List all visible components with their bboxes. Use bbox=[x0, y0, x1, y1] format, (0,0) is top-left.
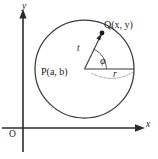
x-axis-label: x bbox=[146, 120, 150, 130]
point-Q-dot bbox=[100, 31, 105, 36]
y-axis-label: y bbox=[22, 2, 26, 12]
point-P-label: P(a, b) bbox=[41, 67, 68, 77]
diagram-canvas bbox=[0, 0, 158, 159]
origin-label: O bbox=[9, 130, 16, 140]
geometry-diagram: y x O Q(x, y) P(a, b) t r φ bbox=[0, 0, 158, 159]
radius-label: r bbox=[113, 70, 117, 80]
angle-phi-label: φ bbox=[100, 56, 106, 66]
t-segment-label: t bbox=[77, 44, 80, 54]
x-axis-arrow-icon bbox=[135, 124, 145, 132]
point-Q-label: Q(x, y) bbox=[104, 20, 133, 30]
